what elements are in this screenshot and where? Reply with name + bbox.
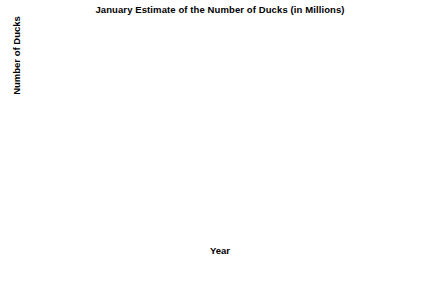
duck-population-line-chart: January Estimate of the Number of Ducks … [0,0,440,282]
plot-frame [58,27,424,229]
y-axis-title: Number of Ducks [11,0,22,116]
chart-title: January Estimate of the Number of Ducks … [0,4,440,15]
x-axis-title: Year [0,245,440,256]
plot-svg [58,27,424,229]
plot-area [58,27,424,229]
